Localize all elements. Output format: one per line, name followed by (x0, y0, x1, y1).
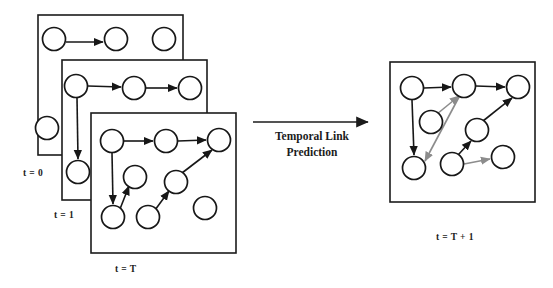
node (466, 119, 489, 142)
edge-existing (112, 153, 113, 204)
edge-existing (178, 140, 206, 141)
node (179, 77, 202, 100)
node (403, 157, 426, 180)
node (43, 28, 66, 51)
panel-t1-label: t = 1 (54, 210, 74, 220)
node (67, 161, 90, 184)
node (441, 153, 464, 176)
node (153, 28, 176, 51)
panel-t0-label: t = 0 (23, 168, 43, 178)
edge-existing (476, 86, 505, 87)
node (101, 130, 124, 153)
node (155, 130, 178, 153)
node (105, 28, 128, 51)
node (492, 146, 515, 169)
panel-tT-label: t = T (115, 264, 137, 274)
temporal-link-prediction-figure: t = 0 t = 1 (0, 0, 553, 288)
node (124, 166, 147, 189)
node (401, 77, 424, 100)
node (123, 77, 146, 100)
panel-tT: t = T (91, 113, 236, 274)
figure-canvas: t = 0 t = 1 (0, 0, 553, 288)
node (453, 75, 476, 98)
node (65, 75, 88, 98)
node (208, 129, 231, 152)
node (507, 76, 530, 99)
node (420, 111, 443, 134)
node (102, 206, 125, 229)
node (36, 117, 59, 140)
transition-group: Temporal Link Prediction (253, 122, 368, 158)
transition-label-line2: Prediction (287, 146, 338, 158)
node (137, 206, 160, 229)
edge-existing (77, 98, 78, 159)
panel-tT1-label: t = T + 1 (436, 232, 474, 242)
transition-label-line1: Temporal Link (275, 130, 350, 143)
edge-existing (88, 86, 121, 87)
panel-tT1: t = T + 1 (390, 62, 535, 242)
node (194, 197, 217, 220)
node (165, 171, 188, 194)
edge-existing (424, 87, 451, 88)
